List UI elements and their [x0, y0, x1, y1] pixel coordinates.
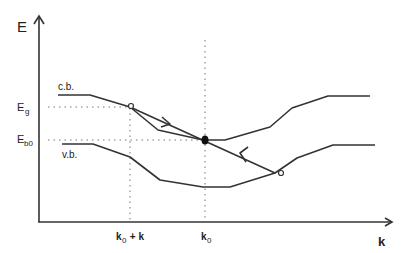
conduction-band-curve — [58, 95, 370, 140]
eg-label-sub: g — [25, 107, 29, 116]
k0-plus-k-label: k 0 + k — [116, 231, 144, 245]
conduction-band-label: c.b. — [58, 81, 74, 92]
k0-plus-k-rest: + k — [127, 231, 144, 242]
open-circle-upper — [129, 104, 134, 109]
eb0-label: E b0 — [17, 133, 33, 148]
x-axis-label: k — [378, 234, 386, 249]
band-diagram: E k c.b. v.b. E g E b0 k 0 + k k 0 — [0, 0, 409, 253]
eg-label: E g — [17, 101, 29, 116]
valence-band-label: v.b. — [62, 149, 77, 160]
eb0-label-sub: b0 — [24, 139, 33, 148]
open-circle-lower — [279, 171, 284, 176]
filled-dot — [202, 136, 209, 145]
eg-label-main: E — [17, 101, 24, 113]
k0-label: k 0 — [201, 231, 212, 245]
y-axis-label: E — [17, 18, 27, 35]
valence-band-curve — [62, 144, 375, 187]
k0-sub: 0 — [207, 236, 212, 245]
axes — [34, 16, 392, 226]
